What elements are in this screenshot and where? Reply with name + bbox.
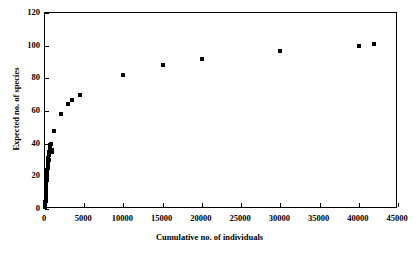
y-axis-tick: [45, 13, 49, 14]
data-point: [357, 44, 361, 48]
x-axis-tick: [163, 203, 164, 207]
data-point: [52, 129, 56, 133]
data-point: [278, 49, 282, 53]
data-point: [59, 112, 63, 116]
x-axis-tick: [320, 203, 321, 207]
x-axis-tick: [359, 203, 360, 207]
x-axis-tick: [398, 203, 399, 207]
species-accumulation-chart: Expected no. of species Cumulative no. o…: [0, 0, 419, 253]
y-axis-tick-label: 100: [10, 41, 40, 50]
y-axis-tick: [45, 78, 49, 79]
data-point: [161, 63, 165, 67]
y-axis-tick-label: 60: [10, 106, 40, 115]
data-point: [200, 57, 204, 61]
x-axis-tick: [84, 203, 85, 207]
x-axis-tick: [280, 203, 281, 207]
x-axis-tick: [123, 203, 124, 207]
x-axis-tick: [202, 203, 203, 207]
data-point: [46, 163, 50, 167]
data-point: [50, 148, 54, 152]
y-axis-tick: [45, 46, 49, 47]
plot-area: [45, 13, 396, 207]
y-axis-tick: [45, 111, 49, 112]
data-point: [66, 102, 70, 106]
plot-frame: [44, 12, 397, 208]
y-axis-tick-label: 120: [10, 8, 40, 17]
x-axis-tick-label: 45000: [372, 214, 419, 223]
data-point: [372, 42, 376, 46]
y-axis-tick-label: 20: [10, 171, 40, 180]
data-point: [121, 73, 125, 77]
y-axis-tick-label: 0: [10, 204, 40, 213]
data-point: [78, 93, 82, 97]
x-axis-tick: [241, 203, 242, 207]
y-axis-tick-label: 40: [10, 139, 40, 148]
data-point: [70, 98, 74, 102]
data-point: [45, 171, 49, 175]
x-axis-title: Cumulative no. of individuals: [0, 232, 419, 242]
data-point: [49, 142, 53, 146]
y-axis-tick-label: 80: [10, 73, 40, 82]
